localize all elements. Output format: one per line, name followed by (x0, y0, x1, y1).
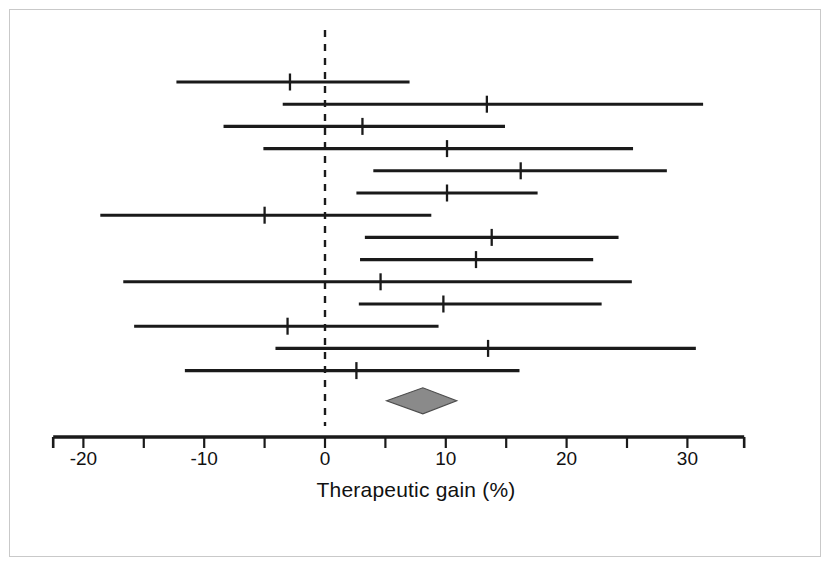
x-axis-tick-label: 10 (435, 448, 456, 470)
forest-row (224, 118, 505, 135)
x-axis-tick-label: 30 (677, 448, 698, 470)
forest-row (373, 162, 667, 179)
x-axis-title: Therapeutic gain (%) (0, 478, 832, 502)
x-axis-tick-label: -20 (70, 448, 97, 470)
forest-row (365, 229, 619, 246)
forest-row (123, 273, 632, 290)
forest-row (360, 251, 593, 268)
forest-row (356, 185, 537, 202)
forest-row (275, 340, 695, 357)
forest-row (263, 140, 633, 157)
x-axis-tick-label: 0 (320, 448, 331, 470)
x-axis-tick-label: 20 (556, 448, 577, 470)
pooled-estimate-diamond (387, 388, 457, 414)
forest-row (359, 296, 602, 313)
forest-row (185, 362, 520, 379)
x-axis-tick-label: -10 (190, 448, 217, 470)
forest-row (134, 318, 438, 335)
forest-row (176, 74, 409, 91)
figure-page: Therapeutic gain (%) -20-100102030 (0, 0, 832, 568)
forest-row (283, 96, 703, 113)
forest-row (100, 207, 431, 224)
